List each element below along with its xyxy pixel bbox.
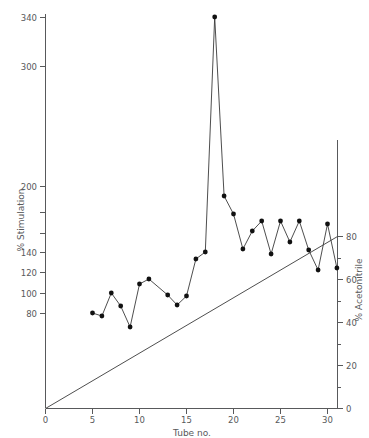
x-tick-label-0: 0: [43, 415, 48, 425]
left-y-axis: 340 300 200 140 120 100 80 % Stimulation: [16, 13, 46, 408]
data-point: [175, 303, 180, 308]
data-point: [306, 248, 311, 253]
stimulation-series: [90, 15, 339, 330]
data-point: [325, 222, 330, 227]
x-tick-label-25: 25: [275, 415, 286, 425]
x-tick-label-20: 20: [228, 415, 239, 425]
data-point: [297, 219, 302, 224]
left-tick-label-120: 120: [21, 268, 37, 278]
x-tick-label-10: 10: [134, 415, 145, 425]
data-point: [212, 15, 217, 20]
acetonitrile-gradient-line: [46, 237, 338, 409]
data-point: [222, 194, 227, 199]
data-point: [203, 250, 208, 255]
data-point: [241, 247, 246, 252]
left-tick-label-100: 100: [21, 289, 37, 299]
data-point: [278, 219, 283, 224]
data-point: [288, 240, 293, 245]
x-axis-title: Tube no.: [172, 428, 211, 438]
data-point: [335, 266, 340, 271]
x-tick-label-5: 5: [90, 415, 95, 425]
left-tick-label-340: 340: [21, 13, 37, 23]
right-tick-label-20: 20: [346, 361, 357, 371]
data-point: [316, 268, 321, 273]
gradient-series: [46, 237, 338, 409]
right-axis-title: % Acetonitrile: [354, 258, 364, 321]
data-point: [184, 294, 189, 299]
data-point: [250, 229, 255, 234]
data-point: [147, 277, 152, 282]
data-point: [109, 291, 114, 296]
stimulation-polyline: [93, 17, 337, 327]
right-tick-label-0: 0: [346, 404, 351, 414]
x-axis: 0 5 10 15 20 25 30 Tube no.: [43, 409, 338, 438]
chart-svg: 340 300 200 140 120 100 80 % Stimulation…: [0, 0, 369, 438]
data-point: [90, 311, 95, 316]
data-point: [100, 314, 105, 319]
chart-figure: 340 300 200 140 120 100 80 % Stimulation…: [0, 0, 369, 438]
data-point: [269, 252, 274, 257]
right-y-axis: 0 20 40 60 80 % Acetonitrile: [338, 140, 365, 414]
data-point: [137, 282, 142, 287]
data-point: [165, 293, 170, 298]
data-point: [259, 219, 264, 224]
left-tick-label-80: 80: [26, 309, 37, 319]
left-tick-label-300: 300: [21, 62, 37, 72]
left-axis-title: % Stimulation: [16, 189, 26, 252]
data-point: [231, 212, 236, 217]
data-point: [194, 257, 199, 262]
x-tick-label-15: 15: [181, 415, 192, 425]
data-point: [128, 325, 133, 330]
x-tick-label-30: 30: [322, 415, 333, 425]
right-tick-label-80: 80: [346, 232, 357, 242]
data-point: [118, 304, 123, 309]
